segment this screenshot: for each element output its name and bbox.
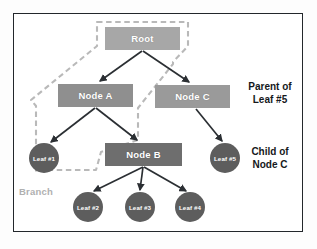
node-node-a[interactable]: Node A bbox=[58, 84, 133, 107]
node-leaf-4[interactable]: Leaf #4 bbox=[175, 192, 205, 222]
edge-root-nodec bbox=[143, 51, 189, 82]
edge-nodeb-leaf2 bbox=[94, 167, 143, 191]
node-leaf-5[interactable]: Leaf #5 bbox=[210, 143, 240, 173]
edge-nodea-nodeb bbox=[96, 108, 137, 140]
annotation-branch: Branch bbox=[19, 186, 53, 197]
annotation-child-of: Child of Node C bbox=[240, 146, 300, 171]
tree-diagram: Root Node A Node C Node B Leaf #1 Leaf #… bbox=[0, 0, 317, 249]
edge-nodeb-leaf3 bbox=[140, 167, 143, 190]
node-leaf-2[interactable]: Leaf #2 bbox=[73, 192, 103, 222]
node-root[interactable]: Root bbox=[105, 27, 180, 50]
edge-nodea-leaf1 bbox=[51, 108, 95, 142]
edge-nodec-leaf5 bbox=[196, 109, 222, 141]
annotation-parent-of: Parent of Leaf #5 bbox=[240, 81, 300, 106]
node-leaf-1[interactable]: Leaf #1 bbox=[29, 143, 59, 173]
node-node-c[interactable]: Node C bbox=[155, 85, 230, 108]
edge-nodeb-leaf4 bbox=[144, 167, 186, 191]
node-node-b[interactable]: Node B bbox=[105, 143, 182, 166]
node-leaf-3[interactable]: Leaf #3 bbox=[125, 192, 155, 222]
edge-root-nodea bbox=[100, 51, 142, 81]
